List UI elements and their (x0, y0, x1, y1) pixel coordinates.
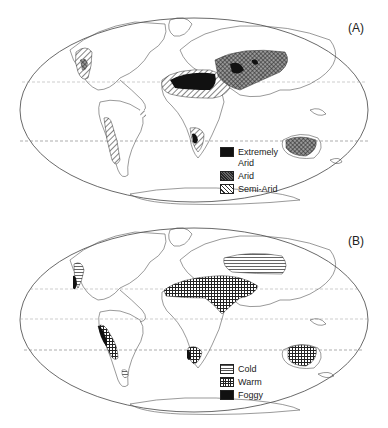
legend-b: Cold Warm Foggy (220, 364, 263, 403)
world-map-b (0, 214, 388, 428)
legend-label: Extremely Arid (238, 147, 278, 169)
world-map-a (0, 0, 388, 214)
legend-item-foggy: Foggy (220, 390, 263, 401)
semi-arid-swatch (220, 184, 234, 194)
legend-item-cold: Cold (220, 364, 263, 375)
legend-label: Foggy (238, 390, 263, 401)
foggy-swatch (220, 390, 234, 400)
arid-swatch (220, 171, 234, 181)
warm-swatch (220, 377, 234, 387)
legend-a: Extremely Arid Arid Semi-Arid (220, 147, 278, 197)
cold-swatch (220, 364, 234, 374)
legend-label: Arid (238, 171, 254, 182)
legend-item-extremely-arid: Extremely Arid (220, 147, 278, 169)
map-panel-b: (B) Cold Warm Foggy (0, 214, 388, 428)
legend-item-warm: Warm (220, 377, 263, 388)
legend-label: Warm (238, 377, 262, 388)
legend-item-semi-arid: Semi-Arid (220, 184, 278, 195)
extremely-arid-swatch (220, 147, 234, 157)
panel-label-b: (B) (348, 234, 364, 248)
legend-item-arid: Arid (220, 171, 278, 182)
panel-label-a: (A) (348, 21, 364, 35)
legend-label: Cold (238, 364, 257, 375)
legend-label: Semi-Arid (238, 184, 278, 195)
map-panel-a: (A) Extremely Arid Arid Semi-Arid (0, 0, 388, 214)
